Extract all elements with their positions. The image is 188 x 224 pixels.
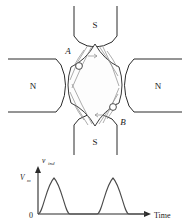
pole-left-bottom-shoe xyxy=(56,106,61,112)
conductor-label-a: A xyxy=(64,46,71,56)
pole-label-right: N xyxy=(155,81,162,91)
y-axis-label: v xyxy=(42,156,46,165)
four-pole-generator-figure: S S N N xyxy=(0,0,188,224)
conductor-label-b: B xyxy=(120,117,126,127)
pole-top-right-shoe xyxy=(112,36,117,42)
x-axis-label: Time xyxy=(154,211,171,220)
pole-right-top-shoe xyxy=(129,59,134,65)
conductor-b-marker xyxy=(110,104,117,111)
pole-left: N xyxy=(8,59,66,112)
y-peak-label: V xyxy=(20,173,26,182)
pole-right: N xyxy=(125,59,183,112)
pole-top: S xyxy=(74,6,117,47)
y-axis-label-subscript: ind xyxy=(48,161,55,166)
y-axis-arrow-icon xyxy=(35,166,41,173)
pole-left-top-shoe xyxy=(56,59,61,65)
pole-top-left-shoe xyxy=(74,36,79,42)
induced-voltage-plot: v ind V m 0 Time xyxy=(20,156,171,220)
pole-right-face xyxy=(125,65,130,106)
conductor-a-marker xyxy=(76,63,83,70)
waveform-v-ind xyxy=(38,178,146,214)
pole-bottom-right-shoe xyxy=(112,119,117,125)
pole-label-bottom: S xyxy=(92,137,97,147)
pole-left-face xyxy=(61,65,66,106)
y-peak-label-subscript: m xyxy=(27,178,31,183)
pole-label-left: N xyxy=(30,81,37,91)
pole-right-bottom-shoe xyxy=(129,106,134,112)
origin-label: 0 xyxy=(29,211,33,220)
pole-label-top: S xyxy=(92,20,97,30)
pole-bottom-left-shoe xyxy=(74,119,79,125)
